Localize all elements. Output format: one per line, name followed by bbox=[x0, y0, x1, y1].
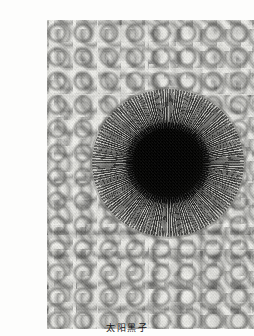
sunspot-photograph bbox=[47, 20, 254, 329]
figure-caption: 太阳黑子 bbox=[0, 323, 254, 336]
page: 太阳黑子 bbox=[0, 0, 254, 336]
film-grain-layer bbox=[47, 20, 254, 329]
photo-plate bbox=[47, 20, 254, 329]
